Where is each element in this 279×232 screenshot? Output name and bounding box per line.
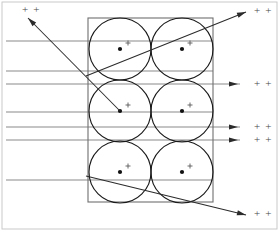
scattered-ray [86,12,246,76]
ray-arrowhead-icon [237,10,247,18]
circle-center-dot [118,170,122,174]
scattered-ray [28,18,120,111]
circle-center-dot [180,170,184,174]
charge-label: + + [254,120,273,132]
circle-center-dot [180,47,184,51]
ray-arrowhead-icon [237,210,247,217]
incoming-rays-group [6,41,240,180]
charge-label: + + [22,3,41,15]
outer-frame [2,2,277,229]
ray-diagram: + ++ ++ ++ ++ ++ + [0,0,279,232]
circle-center-dot [180,109,184,113]
scattered-ray [86,176,246,215]
scatterer-circles-group [89,18,213,203]
ray-arrowhead-icon [229,81,238,86]
ray-arrowhead-icon [229,124,238,129]
diagram-canvas: + ++ ++ ++ ++ ++ + [0,0,279,232]
circle-center-dot [118,47,122,51]
ray-arrowhead-icon [229,137,238,142]
charge-label: + + [254,133,273,145]
charge-label: + + [254,207,273,219]
charge-label: + + [254,4,273,16]
charge-label: + + [254,77,273,89]
